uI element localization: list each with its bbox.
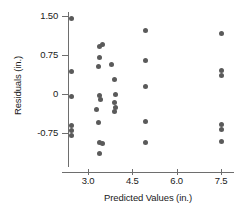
scatter-point xyxy=(69,94,74,99)
scatter-point xyxy=(143,84,148,89)
scatter-point xyxy=(69,69,74,74)
scatter-point xyxy=(100,42,105,47)
y-axis-title: Residuals (in.) xyxy=(12,31,23,141)
scatter-point xyxy=(97,55,102,60)
scatter-point xyxy=(112,109,117,114)
scatter-plot-figure: 1.500.750-0.753.04.56.07.5 Predicted Val… xyxy=(0,0,243,220)
scatter-point xyxy=(69,123,74,128)
scatter-point xyxy=(96,64,101,69)
scatter-point xyxy=(219,73,224,78)
scatter-point xyxy=(113,92,118,97)
scatter-point xyxy=(219,122,224,127)
scatter-point xyxy=(96,120,101,125)
scatter-point xyxy=(69,16,74,21)
scatter-point xyxy=(109,62,114,67)
scatter-point xyxy=(219,127,224,132)
scatter-point xyxy=(98,97,103,102)
scatter-point xyxy=(143,28,148,33)
scatter-point xyxy=(219,139,224,144)
scatter-point xyxy=(69,133,74,138)
scatter-point xyxy=(97,151,102,156)
scatter-point xyxy=(143,119,148,124)
scatter-point xyxy=(100,141,105,146)
scatter-point xyxy=(143,140,148,145)
data-points xyxy=(0,0,243,220)
scatter-point xyxy=(112,77,117,82)
scatter-point xyxy=(219,31,224,36)
scatter-point xyxy=(143,58,148,63)
x-axis-title: Predicted Values (in.) xyxy=(62,192,234,203)
scatter-point xyxy=(94,107,99,112)
